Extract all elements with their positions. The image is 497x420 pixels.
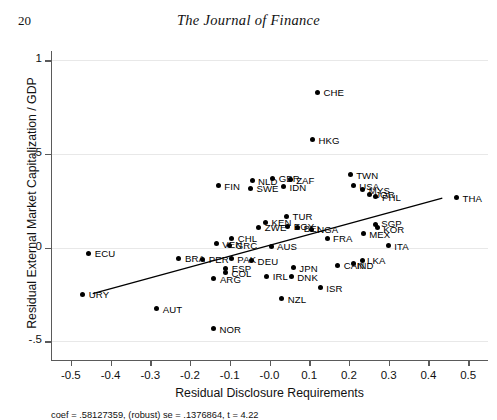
x-axis-tick-label: -0.5 xyxy=(51,369,91,381)
data-point xyxy=(315,90,320,95)
data-point-label: TWN xyxy=(356,170,378,181)
y-axis-tick-label: .5 xyxy=(32,146,42,158)
x-axis-tick-mark xyxy=(389,360,390,366)
y-axis-tick-label: -.5 xyxy=(29,333,42,345)
x-axis-tick-label: 0.3 xyxy=(369,369,409,381)
data-point-label: ECU xyxy=(95,248,116,259)
data-point-label: HKG xyxy=(318,135,339,146)
data-point-label: AUT xyxy=(163,304,183,315)
data-point-label: ISR xyxy=(326,283,342,294)
y-axis-tick-label: 1 xyxy=(36,52,42,64)
data-point xyxy=(361,231,366,236)
x-axis-tick-mark xyxy=(349,360,350,366)
data-point-label: DNK xyxy=(297,272,318,283)
y-axis-tick-mark xyxy=(45,154,51,155)
x-axis-tick-label: -0.1 xyxy=(210,369,250,381)
data-point xyxy=(325,236,330,241)
data-point-label: DEU xyxy=(258,256,279,267)
scatter-plot-figure: Residual External Market Capitalization … xyxy=(0,36,497,399)
y-axis-tick-label: 0 xyxy=(36,240,42,252)
data-point xyxy=(200,257,205,262)
data-point xyxy=(80,292,85,297)
data-point-label: MEX xyxy=(369,229,390,240)
data-point-label: FRA xyxy=(333,233,353,244)
data-point-label: AUS xyxy=(277,241,297,252)
journal-page-header: 20 The Journal of Finance xyxy=(0,0,497,36)
y-axis-tick-mark xyxy=(45,248,51,249)
x-axis-tick-label: -0.4 xyxy=(91,369,131,381)
x-axis-tick-mark xyxy=(428,360,429,366)
x-axis-tick-mark xyxy=(150,360,151,366)
data-point-label: SWE xyxy=(256,184,271,194)
plot-area: CHEHKGTWNGBRZAFNLDUSAIDNFINSWEMYSJORPHLT… xyxy=(51,51,488,360)
data-point xyxy=(86,251,91,256)
x-axis-tick-mark xyxy=(270,360,271,366)
x-axis-tick-label: -0.2 xyxy=(170,369,210,381)
data-point xyxy=(367,192,372,197)
x-axis-tick-label: -0.0 xyxy=(250,369,290,381)
x-axis-tick-mark xyxy=(111,360,112,366)
data-point-label: PHL xyxy=(382,192,401,203)
data-point xyxy=(335,263,340,268)
x-axis-tick-mark xyxy=(190,360,191,366)
y-axis-tick-mark xyxy=(45,60,51,61)
data-point xyxy=(269,244,274,249)
x-axis-tick-label: 0.4 xyxy=(408,369,448,381)
data-point xyxy=(309,227,314,232)
data-point-label: FIN xyxy=(224,181,240,192)
data-point-label: GRC xyxy=(236,240,258,251)
x-axis-tick-label: 0.1 xyxy=(289,369,329,381)
data-point xyxy=(227,243,232,248)
fit-statistics-caption: coef = .58127359, (robust) se = .1376864… xyxy=(51,410,259,420)
data-point-label: IRL xyxy=(273,271,288,282)
data-point-label: THA xyxy=(463,193,483,204)
data-point xyxy=(264,274,269,279)
y-axis-tick-mark xyxy=(45,341,51,342)
data-point-label: CHE xyxy=(324,87,345,98)
data-point xyxy=(310,137,315,142)
data-point-label: ZWE xyxy=(265,222,287,233)
data-point-label: ARG xyxy=(220,274,241,285)
x-axis-tick-label: -0.3 xyxy=(130,369,170,381)
x-axis-tick-label: 0.5 xyxy=(448,369,488,381)
data-point-label: CAN xyxy=(344,260,365,271)
data-point-label: PER xyxy=(209,254,229,265)
x-axis-tick-mark xyxy=(468,360,469,366)
data-point-label: NZL xyxy=(288,294,306,305)
data-point xyxy=(250,178,255,183)
x-axis-title: Residual Disclosure Requirements xyxy=(51,386,488,400)
data-point-label: URY xyxy=(89,289,109,300)
y-axis-line xyxy=(51,51,52,360)
data-point-label: IDN xyxy=(289,182,306,193)
x-axis-tick-label: 0.2 xyxy=(329,369,369,381)
journal-title: The Journal of Finance xyxy=(0,12,497,29)
regression-fit-line xyxy=(51,51,488,360)
x-axis-tick-mark xyxy=(230,360,231,366)
data-point-label: ITA xyxy=(394,241,409,252)
y-axis-ticks: 1.50-.5 xyxy=(0,36,42,399)
x-axis-tick-mark xyxy=(71,360,72,366)
x-axis-tick-mark xyxy=(309,360,310,366)
data-point-label: NOR xyxy=(219,324,241,335)
